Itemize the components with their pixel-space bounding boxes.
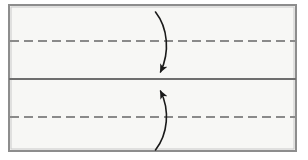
diagram-canvas	[0, 0, 308, 160]
paper-folding-diagram	[0, 0, 308, 160]
